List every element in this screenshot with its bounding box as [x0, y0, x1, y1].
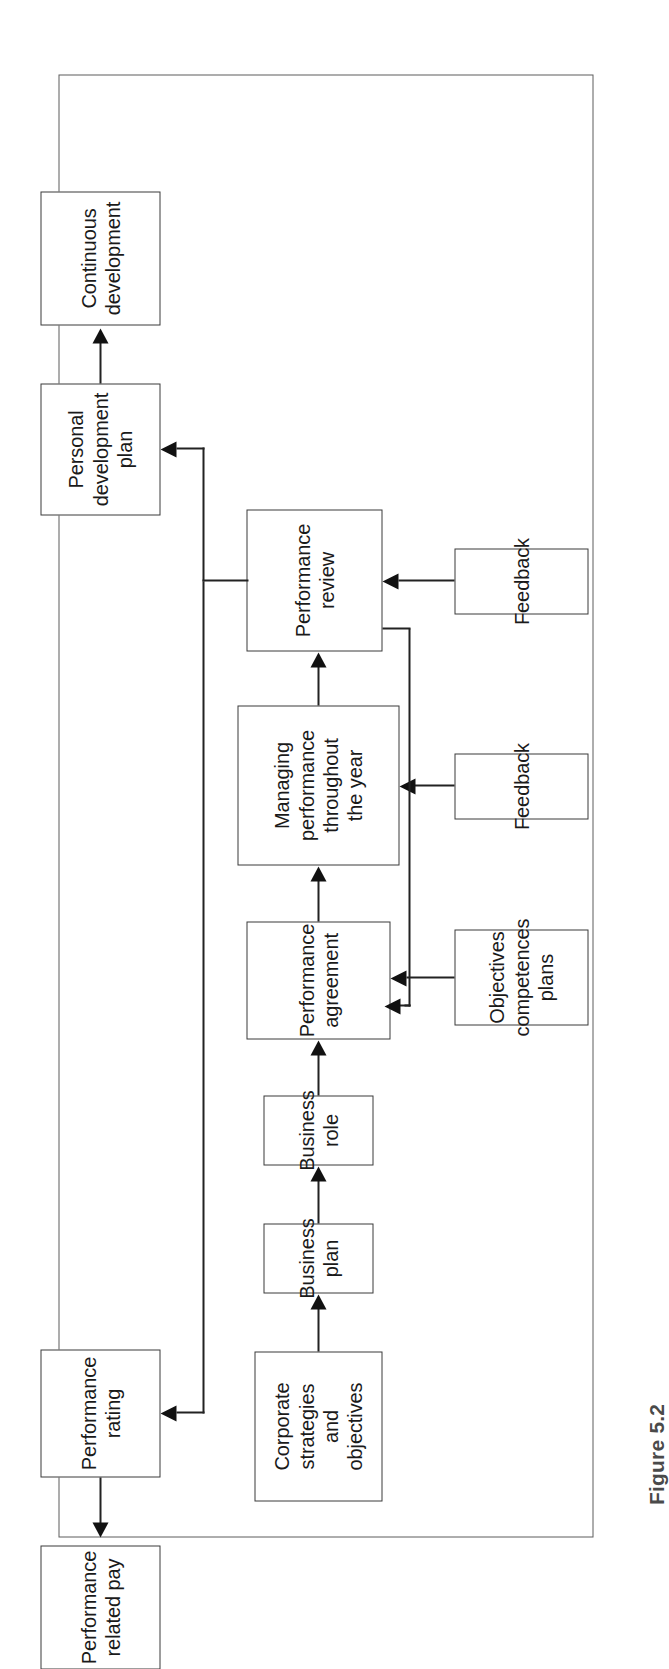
- edge-review-branch-bus: [202, 581, 204, 1413]
- arrowhead-objectives-to-performance-agreement: [390, 970, 406, 986]
- arrowhead-personal-development-plan-to-continuous-development: [92, 328, 108, 343]
- arrowhead-performance-agreement-to-managing-performance: [310, 866, 326, 881]
- node-personal-development-plan[interactable]: Personal development plan: [40, 383, 160, 515]
- arrowhead-managing-performance-to-performance-review: [310, 652, 326, 667]
- node-performance-related-pay[interactable]: Performance related pay: [40, 1545, 160, 1669]
- node-business-role[interactable]: Business role: [263, 1095, 373, 1165]
- arrowhead-feedback-to-performance-review: [382, 573, 398, 589]
- edge-branch-bus-right: [202, 447, 204, 581]
- edge-feedback-to-managing-performance: [414, 784, 454, 786]
- node-continuous-development[interactable]: Continuous development: [40, 191, 160, 325]
- node-performance-agreement[interactable]: Performance agreement: [246, 921, 390, 1039]
- arrowhead-loop-into-performance-agreement: [384, 998, 400, 1014]
- arrowhead-feedback-to-managing-performance: [399, 778, 415, 794]
- edge-objectives-to-performance-agreement: [406, 976, 454, 978]
- diagram-canvas: Corporate strategies and objectives Busi…: [58, 74, 593, 1537]
- figure-caption: Figure 5.2: [645, 1404, 669, 1505]
- edge-loop-review-down: [382, 627, 410, 629]
- arrowhead-branch-to-personal-development-plan: [160, 441, 176, 457]
- edge-performance-agreement-to-managing-performance: [317, 877, 319, 921]
- node-managing-performance[interactable]: Managing performance throughout the year: [237, 705, 399, 865]
- edge-review-up-stub: [202, 579, 248, 581]
- arrowhead-business-role-to-performance-agreement: [310, 1040, 326, 1055]
- edge-performance-rating-to-performance-related-pay: [99, 1477, 101, 1523]
- node-performance-rating[interactable]: Performance rating: [40, 1349, 160, 1477]
- arrowhead-branch-to-performance-rating: [160, 1405, 176, 1421]
- node-business-plan[interactable]: Business plan: [263, 1223, 373, 1293]
- edge-loop-horizontal: [408, 628, 410, 1006]
- node-corporate-strategies[interactable]: Corporate strategies and objectives: [254, 1351, 382, 1501]
- edge-branch-to-personal-development-plan: [176, 447, 204, 449]
- edge-corporate-to-business-plan: [317, 1305, 319, 1351]
- node-feedback-review[interactable]: Feedback: [454, 548, 588, 614]
- edge-business-plan-to-business-role: [317, 1177, 319, 1223]
- node-performance-review[interactable]: Performance review: [246, 509, 382, 651]
- edge-personal-development-plan-to-continuous-development: [99, 339, 101, 383]
- edge-branch-to-performance-rating: [176, 1411, 204, 1413]
- arrowhead-performance-rating-to-performance-related-pay: [92, 1522, 108, 1537]
- edge-business-role-to-performance-agreement: [317, 1051, 319, 1095]
- edge-feedback-to-performance-review: [398, 579, 454, 581]
- edge-managing-performance-to-performance-review: [317, 663, 319, 705]
- node-feedback-managing[interactable]: Feedback: [454, 753, 588, 819]
- node-objectives-competences-plans[interactable]: Objectives competences plans: [454, 929, 588, 1025]
